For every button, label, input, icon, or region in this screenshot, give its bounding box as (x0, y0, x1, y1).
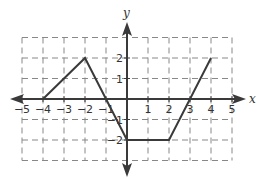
x-axis-label: x (249, 92, 256, 106)
x-tick-label: 4 (208, 103, 215, 116)
y-tick-label: 1 (116, 73, 123, 86)
x-tick-label: −2 (77, 103, 93, 116)
y-axis-label: y (122, 6, 130, 20)
y-tick-label: 2 (116, 52, 123, 65)
coordinate-plane: −5−4−3−2−11234521−1−2 x y (0, 0, 264, 179)
x-tick-label: 1 (145, 103, 152, 116)
x-tick-label: −3 (56, 103, 72, 116)
x-tick-label: −4 (35, 103, 51, 116)
axes (10, 22, 246, 177)
x-tick-label: −5 (14, 103, 30, 116)
y-tick-label: −2 (107, 134, 123, 147)
x-tick-label: 2 (166, 103, 173, 116)
x-tick-label: 5 (229, 103, 236, 116)
